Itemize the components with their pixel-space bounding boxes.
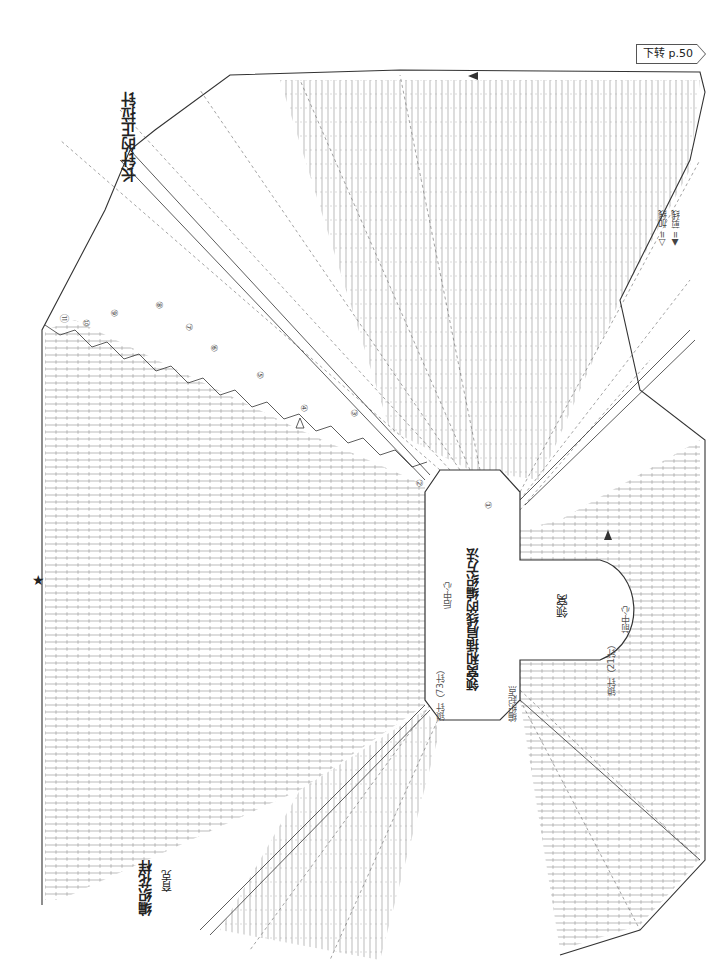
front-center-label: 前中心 bbox=[618, 606, 631, 633]
legend-item-add-yarn: △= 加线 bbox=[655, 210, 668, 248]
row-marker: ① bbox=[483, 501, 493, 509]
row-marker: ⑪ bbox=[58, 314, 71, 323]
neck-opening-outline bbox=[425, 470, 634, 720]
row-marker: ⑤ bbox=[255, 371, 265, 379]
raglan-band bbox=[210, 710, 430, 935]
back-center-label: 后中心 bbox=[440, 582, 453, 609]
raglan-ray bbox=[200, 90, 460, 470]
chart-outline bbox=[42, 70, 705, 955]
row-marker: ⑧ bbox=[154, 301, 164, 309]
row-marker: ④ bbox=[299, 404, 309, 412]
chart-title: 领窝和插肩线的编织方法 bbox=[463, 548, 482, 691]
raglan-band bbox=[200, 705, 425, 930]
row-marker: ⑥ bbox=[209, 344, 219, 352]
raglan-ray bbox=[520, 280, 690, 500]
start-point-label: 编织起点 bbox=[505, 686, 518, 722]
lower-sleeve-stitches bbox=[220, 700, 440, 962]
row-marker: ⑩ bbox=[81, 319, 91, 327]
legend-label-cut-yarn: = 剪线 bbox=[670, 210, 680, 238]
open-triangle-icon: △ bbox=[657, 238, 667, 248]
raglan-ray bbox=[300, 80, 470, 470]
legend-item-cut-yarn: ▲= 剪线 bbox=[668, 210, 681, 248]
section-label: 育克 bbox=[160, 870, 176, 892]
crochet-chart bbox=[0, 0, 722, 962]
row-marker: ⑦ bbox=[184, 323, 194, 331]
back-panel-stitches bbox=[45, 318, 425, 903]
callout-label: 长针的正拉针 bbox=[118, 92, 139, 182]
outer-outline bbox=[42, 70, 705, 955]
row-marker: ③ bbox=[349, 409, 359, 417]
legend: △= 加线 ▲= 剪线 bbox=[655, 210, 685, 280]
star-marker: ★ bbox=[32, 572, 45, 588]
front-pickup-label: 锁针（21针） bbox=[604, 640, 617, 696]
sleeve-panel-stitches bbox=[280, 80, 700, 480]
raglan-band bbox=[525, 340, 695, 505]
raglan-band bbox=[130, 150, 430, 475]
raglan-ray bbox=[520, 700, 640, 930]
raglan-ray bbox=[60, 140, 440, 470]
legend-label-add-yarn: = 加线 bbox=[657, 210, 667, 238]
next-page-label: 下转 p.50 bbox=[643, 47, 693, 60]
neckline-label: 领窝 bbox=[554, 594, 571, 618]
raglan-band bbox=[520, 330, 690, 500]
raglan-ray bbox=[520, 690, 700, 860]
add-yarn-triangle-icon bbox=[296, 418, 304, 428]
filled-triangle-icon: ▲ bbox=[670, 238, 680, 248]
stitch-grid bbox=[45, 75, 705, 962]
cut-yarn-triangle-icon bbox=[604, 530, 612, 540]
raglan-ray bbox=[330, 715, 440, 960]
direction-arrow-icon bbox=[468, 72, 478, 80]
row-marker: ⑨ bbox=[109, 309, 119, 317]
pattern-label: 编织花样 bbox=[136, 860, 156, 916]
back-top-edge bbox=[45, 325, 427, 467]
row-marker: ② bbox=[414, 479, 424, 487]
back-pickup-label: 锁针（73针） bbox=[433, 665, 446, 721]
next-page-tag[interactable]: 下转 p.50 bbox=[636, 44, 697, 64]
raglan-band bbox=[520, 700, 700, 860]
